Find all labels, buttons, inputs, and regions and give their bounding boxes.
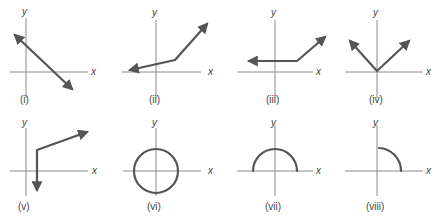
panel-vi: x y (vi) [123, 117, 214, 212]
y-axis-label: y [21, 6, 28, 17]
panel-caption: (iii) [266, 94, 279, 105]
graph-line [249, 37, 325, 61]
panel-caption: (vi) [147, 201, 161, 212]
panel-caption: (i) [20, 94, 29, 105]
panel-viii: x y (viii) [345, 117, 432, 212]
x-axis-label: x [315, 165, 322, 176]
graph-line [37, 132, 87, 190]
x-axis-label: x [425, 66, 432, 77]
panel-v: x y (v) [10, 117, 98, 212]
panel-caption: (v) [18, 201, 30, 212]
graph-line [15, 35, 72, 89]
x-axis-label: x [207, 66, 214, 77]
y-axis-label: y [151, 7, 158, 18]
x-axis-label: x [207, 165, 214, 176]
panel-caption: (viii) [366, 201, 384, 212]
panel-vii: x y (vii) [237, 117, 322, 212]
y-axis-label: y [270, 117, 277, 128]
x-axis-label: x [425, 165, 432, 176]
panel-caption: (vii) [265, 201, 281, 212]
panel-ii: x y (ii) [122, 7, 214, 105]
x-axis-label: x [315, 66, 322, 77]
graph-line [130, 24, 207, 70]
panel-i: x y (i) [10, 6, 97, 105]
y-axis-label: y [21, 117, 28, 128]
graphs-figure: x y (i) x y (ii) x y (iii) x y (iv) x y [0, 0, 436, 218]
panel-iv: x y (iv) [345, 7, 432, 105]
y-axis-label: y [372, 117, 379, 128]
panel-caption: (iv) [369, 94, 383, 105]
panel-caption: (ii) [149, 94, 160, 105]
graph-line [350, 41, 409, 71]
x-axis-label: x [90, 66, 97, 77]
y-axis-label: y [151, 117, 158, 128]
y-axis-label: y [270, 7, 277, 18]
graph-quarter-arc [379, 148, 401, 171]
y-axis-label: y [372, 7, 379, 18]
x-axis-label: x [91, 165, 98, 176]
panel-iii: x y (iii) [237, 7, 325, 105]
